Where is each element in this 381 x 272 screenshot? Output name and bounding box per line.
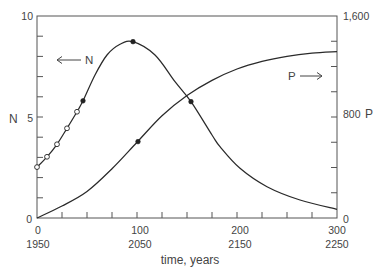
y-left-axis-title: N [9,112,18,126]
x-tick-year-1950: 1950 [26,238,50,250]
y-right-axis-title: P [365,107,373,121]
filled-circle-marker-icon [189,99,194,104]
series-n-curve [37,41,337,209]
x-tick-label-300: 300 [328,224,346,236]
filled-circle-marker-icon [81,99,86,104]
plot-frame [37,16,337,218]
y-left-tick-label-0: 0 [26,213,32,225]
open-circle-marker-icon [35,165,40,170]
y-left-tick-label-10: 10 [21,10,33,22]
x-tick-label-100: 100 [131,224,149,236]
series-curves [37,41,337,218]
open-circle-marker-icon [45,154,50,159]
filled-circle-marker-icon [136,139,141,144]
x-tick-label-200: 200 [231,224,249,236]
x-tick-year-2250: 2250 [325,238,349,250]
axis-ticks [37,36,337,218]
annotation-p-label: P [288,70,296,82]
y-right-tick-label-1600: 1,600 [343,10,369,22]
y-right-tick-label-800: 800 [343,108,361,120]
filled-circle-marker-icon [131,39,136,44]
annotation-n-label: N [85,54,93,66]
y-left-tick-label-5: 5 [27,112,33,124]
population-pollution-chart: 10 5 0 N 1,600 800 0 P 0 1950 100 2050 2… [0,0,381,272]
x-tick-label-0: 0 [35,224,41,236]
annotation-n: N [57,54,93,66]
annotation-p: P [288,70,322,82]
x-tick-year-2150: 2150 [228,238,252,250]
open-circle-marker-icon [75,109,80,114]
open-circle-marker-icon [55,142,60,147]
x-tick-year-2050: 2050 [128,238,152,250]
open-circle-marker-icon [65,126,70,131]
x-axis-title: time, years [161,253,220,267]
